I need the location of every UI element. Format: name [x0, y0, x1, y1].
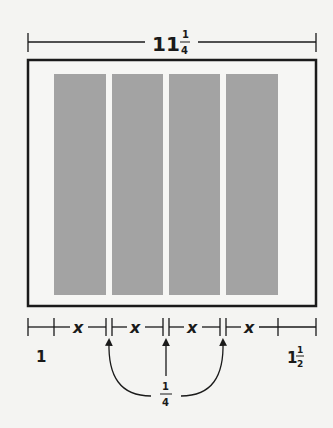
gap-label-denominator: 4 [162, 397, 169, 408]
right-margin-whole: 1 [287, 349, 297, 367]
diagram-canvas: 11 1 4 x x x x 1 1 1 2 [0, 0, 333, 428]
arrow-left-gap [109, 342, 151, 396]
left-margin-label: 1 [36, 348, 46, 366]
right-margin-numerator: 1 [297, 345, 303, 355]
segment-x-1: x [72, 318, 84, 337]
arrow-right-gap [181, 342, 223, 396]
segment-x-4: x [243, 318, 255, 337]
segment-x-2: x [129, 318, 141, 337]
top-dimension-denominator: 4 [181, 45, 188, 56]
segment-x-3: x [186, 318, 198, 337]
right-margin-denominator: 2 [297, 359, 303, 369]
top-dimension-whole: 11 [152, 32, 180, 56]
top-dimension-numerator: 1 [182, 29, 189, 40]
gap-label-numerator: 1 [162, 381, 169, 392]
bottom-dimension-line [28, 318, 316, 336]
strip-2 [112, 74, 163, 295]
strip-3 [169, 74, 220, 295]
strip-4 [226, 74, 278, 295]
strip-1 [54, 74, 106, 295]
